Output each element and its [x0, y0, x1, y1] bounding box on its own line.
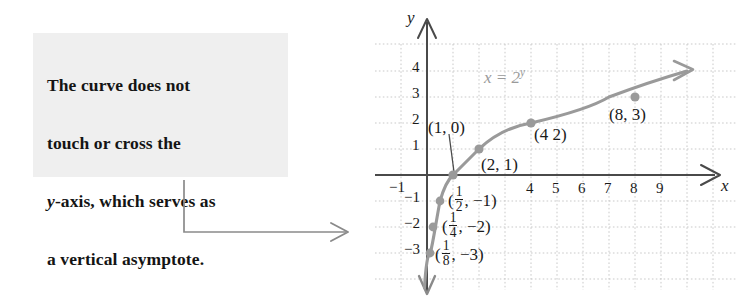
graph-svg — [371, 0, 742, 297]
point-label-1-0: (1, 0) — [428, 118, 465, 138]
marker-1-2-neg1 — [436, 197, 445, 206]
callout-line-4: a vertical asymptote. — [47, 245, 287, 274]
callout-line-2: touch or cross the — [47, 129, 287, 158]
y-tick-3: 3 — [412, 85, 420, 102]
x-tick-6: 6 — [578, 180, 586, 197]
callout-line-1: The curve does not — [47, 71, 287, 100]
point-label-4-2: (4 2) — [534, 125, 567, 145]
equation-text: x = 2 — [484, 68, 520, 87]
callout-pointer-arrow-icon — [150, 168, 370, 248]
fraction-one-eighth: 18 — [442, 239, 451, 268]
y-tick-neg2: −2 — [404, 215, 420, 232]
marker-2-1 — [474, 144, 483, 153]
x-tick-9: 9 — [656, 180, 664, 197]
callout-y-italic: y — [47, 191, 55, 211]
x-tick-5: 5 — [552, 180, 560, 197]
y-axis-label: y — [407, 8, 415, 28]
point-label-quarter-neg2: (14, −2) — [442, 212, 491, 241]
marker-1-0 — [448, 170, 457, 179]
y-tick-neg1: −1 — [404, 189, 420, 206]
x-tick-4: 4 — [526, 180, 534, 197]
marker-8-3 — [630, 92, 639, 101]
leader-line-point-1-0 — [449, 134, 454, 172]
y-tick-neg3: −3 — [404, 241, 420, 258]
y-tick-2: 2 — [412, 111, 420, 128]
x-axis-label: x — [721, 176, 729, 196]
point-label-2-1: (2, 1) — [481, 155, 518, 175]
point-label-quarter-yvalue: −2 — [467, 217, 485, 236]
equation-exponent: y — [520, 66, 525, 79]
fraction-one-quarter: 14 — [449, 211, 458, 240]
point-label-half-yvalue: −1 — [473, 191, 491, 210]
x-tick-neg1: −1 — [389, 179, 405, 196]
marker-1-4-neg2 — [429, 223, 438, 232]
x-tick-7: 7 — [604, 180, 612, 197]
figure-root: The curve does not touch or cross the y-… — [0, 0, 742, 297]
graph-panel: y x x = 2y 4 3 2 1 −1 −2 −3 −1 4 5 6 7 8… — [371, 0, 742, 297]
y-tick-4: 4 — [412, 59, 420, 76]
point-label-eighth-neg3: (18, −3) — [435, 240, 484, 269]
y-tick-1: 1 — [412, 137, 420, 154]
marker-1-8-neg3 — [426, 249, 435, 258]
equation-label: x = 2y — [484, 66, 525, 88]
point-label-8-3: (8, 3) — [609, 105, 646, 125]
point-label-eighth-yvalue: −3 — [460, 245, 478, 264]
x-tick-8: 8 — [630, 180, 638, 197]
